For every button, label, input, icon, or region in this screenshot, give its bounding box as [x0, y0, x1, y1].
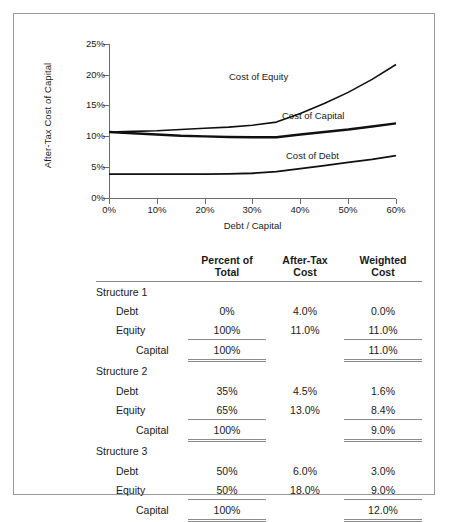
- column-header-after-tax-cost-line1: After-Tax: [266, 254, 344, 266]
- x-tick-label-0: 0%: [89, 204, 129, 215]
- table-row: Equity 50% 18.0% 9.0%: [96, 480, 422, 500]
- group-title-blank-4: [188, 361, 266, 382]
- cell-s1-capital-weighted: 11.0%: [344, 340, 422, 361]
- table-corner-cell: [96, 254, 188, 282]
- cell-s1-capital-aftertax: [266, 340, 344, 361]
- group-title-structure-2: Structure 2: [96, 361, 188, 382]
- cell-s2-equity-percent: 65%: [188, 400, 266, 420]
- cell-s1-equity-aftertax: 11.0%: [266, 320, 344, 340]
- group-title-structure-1: Structure 1: [96, 282, 188, 302]
- table-total-row: Capital 100% 11.0%: [96, 340, 422, 361]
- table-row: Equity 100% 11.0% 11.0%: [96, 320, 422, 340]
- cell-s3-equity-percent: 50%: [188, 480, 266, 500]
- cell-s2-debt-percent: 35%: [188, 381, 266, 400]
- column-header-weighted-cost-line1: Weighted: [344, 254, 422, 266]
- group-title-blank-6: [344, 361, 422, 382]
- row-label-s2-capital: Capital: [96, 420, 188, 441]
- cost-of-equity-label: Cost of Equity: [229, 71, 288, 82]
- group-title-blank-7: [188, 441, 266, 462]
- cost-of-capital-label: Cost of Capital: [282, 110, 344, 121]
- cell-s3-equity-aftertax: 18.0%: [266, 480, 344, 500]
- cell-s3-capital-weighted: 12.0%: [344, 500, 422, 521]
- page-frame: After-Tax Cost of Capital 0% 5% 10% 15% …: [13, 13, 435, 495]
- table-group-title-row: Structure 1: [96, 282, 422, 302]
- chart-x-axis-title: Debt / Capital: [109, 220, 396, 231]
- cell-s2-debt-weighted: 1.6%: [344, 381, 422, 400]
- cell-s3-debt-aftertax: 6.0%: [266, 461, 344, 480]
- cell-s3-debt-weighted: 3.0%: [344, 461, 422, 480]
- group-title-blank-5: [266, 361, 344, 382]
- group-title-blank-8: [266, 441, 344, 462]
- column-header-after-tax-cost: After-Tax Cost: [266, 254, 344, 282]
- table-total-row: Capital 100% 9.0%: [96, 420, 422, 441]
- row-label-s1-capital: Capital: [96, 340, 188, 361]
- y-tick-label-1: 5%: [65, 161, 105, 172]
- table-group-title-row: Structure 2: [96, 361, 422, 382]
- column-header-percent-of-total-line1: Percent of: [188, 254, 266, 266]
- cell-s1-debt-weighted: 0.0%: [344, 301, 422, 320]
- x-tick-label-1: 10%: [137, 204, 177, 215]
- column-header-weighted-cost: Weighted Cost: [344, 254, 422, 282]
- cell-s3-equity-weighted: 9.0%: [344, 480, 422, 500]
- y-tick-label-3: 15%: [65, 99, 105, 110]
- column-header-weighted-cost-line2: Cost: [344, 266, 422, 278]
- table-row: Debt 50% 6.0% 3.0%: [96, 461, 422, 480]
- row-label-s1-equity: Equity: [96, 320, 188, 340]
- table-header-row: Percent of Total After-Tax Cost Weighted…: [96, 254, 422, 282]
- capital-structure-table-block: Percent of Total After-Tax Cost Weighted…: [14, 254, 434, 522]
- capital-structure-table: Percent of Total After-Tax Cost Weighted…: [96, 254, 422, 522]
- x-tick-label-4: 40%: [280, 204, 320, 215]
- cell-s1-capital-percent: 100%: [188, 340, 266, 361]
- x-tick-label-3: 30%: [232, 204, 272, 215]
- y-tick-label-5: 25%: [65, 38, 105, 49]
- cell-s1-equity-weighted: 11.0%: [344, 320, 422, 340]
- table-row: Equity 65% 13.0% 8.4%: [96, 400, 422, 420]
- chart-y-axis-title: After-Tax Cost of Capital: [42, 41, 53, 191]
- row-label-s1-debt: Debt: [96, 301, 188, 320]
- group-title-blank-2: [266, 282, 344, 302]
- y-tick-label-0: 0%: [65, 192, 105, 203]
- cell-s2-equity-aftertax: 13.0%: [266, 400, 344, 420]
- table-group-title-row: Structure 3: [96, 441, 422, 462]
- cell-s3-capital-aftertax: [266, 500, 344, 521]
- column-header-percent-of-total-line2: Total: [188, 266, 266, 278]
- cell-s3-capital-percent: 100%: [188, 500, 266, 521]
- y-tick-label-2: 10%: [65, 130, 105, 141]
- column-header-after-tax-cost-line2: Cost: [266, 266, 344, 278]
- row-label-s3-debt: Debt: [96, 461, 188, 480]
- cell-s2-capital-weighted: 9.0%: [344, 420, 422, 441]
- group-title-structure-3: Structure 3: [96, 441, 188, 462]
- row-label-s3-capital: Capital: [96, 500, 188, 521]
- column-header-percent-of-total: Percent of Total: [188, 254, 266, 282]
- cost-of-debt-label: Cost of Debt: [286, 150, 339, 161]
- cell-s1-debt-aftertax: 4.0%: [266, 301, 344, 320]
- cell-s2-capital-percent: 100%: [188, 420, 266, 441]
- cell-s1-equity-percent: 100%: [188, 320, 266, 340]
- cost-of-capital-chart: After-Tax Cost of Capital 0% 5% 10% 15% …: [14, 14, 434, 242]
- x-tick-label-5: 50%: [328, 204, 368, 215]
- cell-s2-capital-aftertax: [266, 420, 344, 441]
- cost-of-debt-line: [109, 156, 396, 175]
- cell-s2-equity-weighted: 8.4%: [344, 400, 422, 420]
- table-total-row: Capital 100% 12.0%: [96, 500, 422, 521]
- cell-s1-debt-percent: 0%: [188, 301, 266, 320]
- group-title-blank-1: [188, 282, 266, 302]
- table-row: Debt 0% 4.0% 0.0%: [96, 301, 422, 320]
- x-tick-label-6: 60%: [376, 204, 416, 215]
- group-title-blank-3: [344, 282, 422, 302]
- cell-s3-debt-percent: 50%: [188, 461, 266, 480]
- cell-s2-debt-aftertax: 4.5%: [266, 381, 344, 400]
- row-label-s2-debt: Debt: [96, 381, 188, 400]
- row-label-s3-equity: Equity: [96, 480, 188, 500]
- row-label-s2-equity: Equity: [96, 400, 188, 420]
- chart-curves: [109, 44, 396, 199]
- table-row: Debt 35% 4.5% 1.6%: [96, 381, 422, 400]
- chart-plot-area: 0% 5% 10% 15% 20% 25% 0% 10% 20% 30% 40%…: [109, 44, 396, 199]
- y-tick-label-4: 20%: [65, 69, 105, 80]
- group-title-blank-9: [344, 441, 422, 462]
- x-tick-label-2: 20%: [185, 204, 225, 215]
